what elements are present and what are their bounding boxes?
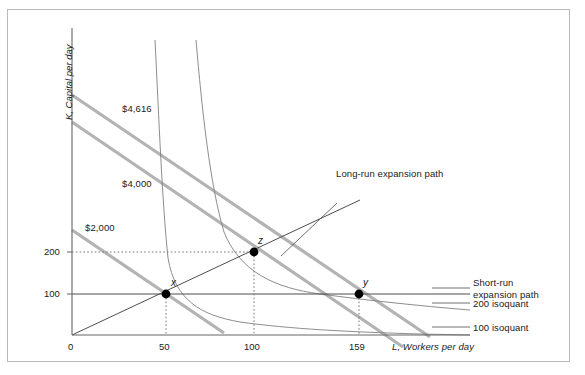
x-tick-label-50: 50 bbox=[159, 341, 170, 352]
isoquant-100-label: 100 isoquant bbox=[473, 322, 529, 334]
point-x-label: x bbox=[171, 277, 176, 288]
isoquant-100-curve bbox=[155, 40, 470, 335]
isocost-line-4000 bbox=[72, 122, 403, 347]
x-tick-label-100: 100 bbox=[244, 341, 260, 352]
x-axis-label: L, Workers per day bbox=[392, 341, 474, 353]
chart-svg bbox=[0, 0, 585, 375]
isoquant-200-label: 200 isoquant bbox=[473, 298, 529, 310]
long-run-expansion-path-label: Long-run expansion path bbox=[336, 168, 443, 180]
point-z-marker[interactable] bbox=[250, 248, 259, 257]
point-y-label: y bbox=[363, 277, 368, 288]
figure-root: K, Capital per day L, Workers per day 0 … bbox=[0, 0, 585, 375]
isocost-line-2000 bbox=[72, 230, 224, 333]
isocost-label-4616: $4,616 bbox=[122, 103, 152, 115]
x-tick-label-0: 0 bbox=[68, 341, 73, 352]
point-y-marker[interactable] bbox=[355, 290, 364, 299]
y-axis-label: K, Capital per day bbox=[63, 44, 74, 120]
y-tick-label-200: 200 bbox=[44, 246, 60, 257]
x-tick-label-159: 159 bbox=[349, 341, 365, 352]
isocost-label-4000: $4,000 bbox=[122, 178, 152, 190]
point-x-marker[interactable] bbox=[162, 290, 171, 299]
short-run-label-line1: Short-run bbox=[473, 277, 514, 288]
point-z-label: z bbox=[258, 235, 263, 246]
leader-long-run bbox=[281, 203, 337, 256]
isocost-label-2000: $2,000 bbox=[85, 222, 115, 234]
y-tick-label-100: 100 bbox=[44, 288, 60, 299]
